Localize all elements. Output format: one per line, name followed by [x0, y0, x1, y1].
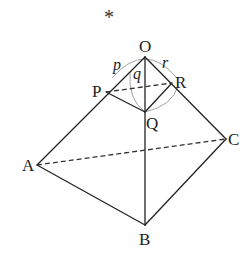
label-o: O: [139, 37, 151, 56]
asterisk-marker: *: [104, 6, 114, 28]
label-p: P: [92, 82, 101, 101]
pyramid-diagram: * O P Q R A B C p q r: [0, 0, 250, 271]
label-q: Q: [146, 114, 158, 133]
label-b: B: [139, 230, 150, 249]
angle-label-r: r: [162, 54, 169, 71]
angle-label-p: p: [112, 56, 121, 74]
angle-arc-q-right: [145, 86, 178, 112]
edge-pq: [106, 92, 145, 112]
label-c: C: [228, 130, 239, 149]
angle-label-q: q: [133, 65, 141, 83]
edge-ac-dashed: [37, 139, 226, 165]
label-a: A: [22, 156, 35, 175]
edge-ab: [37, 165, 145, 225]
edge-oa: [37, 57, 145, 165]
label-r: R: [175, 73, 187, 92]
edge-bc: [145, 139, 226, 225]
edge-pr-dashed: [106, 83, 172, 92]
